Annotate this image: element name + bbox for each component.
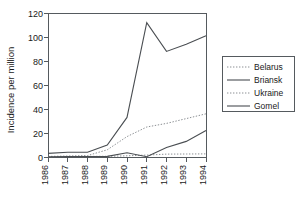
y-tick-label: 20 — [33, 129, 43, 139]
plot-frame — [48, 13, 206, 157]
y-axis-title-text: Incidence per million — [5, 47, 16, 134]
series-line-ukraine — [48, 114, 206, 157]
series-line-briansk — [48, 23, 206, 154]
y-tick-label: 0 — [38, 153, 43, 163]
line-chart: Incidence per million 0 20 40 60 80 100 … — [0, 0, 298, 197]
y-tick-labels: 0 20 40 60 80 100 120 — [28, 9, 43, 163]
x-tick-label: 1987 — [60, 165, 70, 185]
x-tick-label: 1994 — [198, 165, 208, 185]
x-tick-labels: 1986 1987 1988 1989 1990 1991 1992 1993 … — [40, 165, 208, 185]
x-tick-label: 1992 — [159, 165, 169, 185]
y-tick-label: 40 — [33, 105, 43, 115]
x-tick-label: 1991 — [139, 165, 149, 185]
legend-label-belarus: Belarus — [254, 62, 283, 72]
y-tick-marks — [44, 13, 48, 157]
legend-label-gomel: Gomel — [254, 101, 279, 111]
y-tick-label: 120 — [28, 9, 43, 19]
x-tick-label: 1989 — [99, 165, 109, 185]
y-axis-title: Incidence per million — [5, 47, 16, 134]
legend-label-ukraine: Ukraine — [254, 88, 284, 98]
x-tick-marks — [48, 157, 206, 162]
x-tick-label: 1993 — [178, 165, 188, 185]
chart-figure: Incidence per million 0 20 40 60 80 100 … — [0, 0, 298, 197]
data-series-group — [48, 23, 206, 157]
x-tick-label: 1990 — [119, 165, 129, 185]
y-tick-label: 60 — [33, 81, 43, 91]
y-tick-label: 80 — [33, 57, 43, 67]
legend: Belarus Briansk Ukraine Gomel — [223, 57, 295, 112]
legend-label-briansk: Briansk — [254, 75, 283, 85]
x-tick-label: 1986 — [40, 165, 50, 185]
series-line-gomel — [48, 131, 206, 157]
y-tick-label: 100 — [28, 33, 43, 43]
x-tick-label: 1988 — [80, 165, 90, 185]
